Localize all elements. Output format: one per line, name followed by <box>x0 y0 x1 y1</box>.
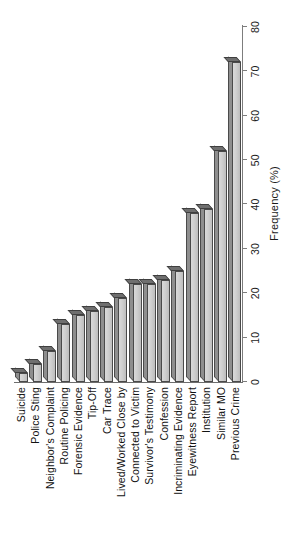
tick-label-70: 70 <box>249 65 261 77</box>
tick-label-0: 0 <box>249 379 261 385</box>
category-label-2: Police Sting <box>29 387 41 444</box>
bar-front-face <box>204 209 213 382</box>
bar-4 <box>57 318 66 382</box>
tick-40 <box>243 204 247 205</box>
category-label-6: Tip-Off <box>86 387 98 419</box>
bar-2 <box>29 358 38 382</box>
bar-front-face <box>33 364 42 382</box>
value-axis-title: Frequency (%) <box>268 25 280 382</box>
tick-60 <box>243 115 247 116</box>
category-label-15: Similar MO <box>215 387 227 440</box>
category-label-11: Confession <box>158 387 170 441</box>
bar-front-face <box>218 151 227 382</box>
bar-10 <box>143 278 152 382</box>
bar-12 <box>171 265 180 382</box>
bar-16 <box>228 57 237 383</box>
tick-label-20: 20 <box>249 287 261 299</box>
bar-15 <box>214 145 223 382</box>
tick-50 <box>243 159 247 160</box>
bar-chart: SuicidePolice StingNeighbor's ComplaintR… <box>0 0 291 551</box>
tick-label-80: 80 <box>249 21 261 33</box>
bar-1 <box>15 367 24 382</box>
bar-3 <box>43 345 52 382</box>
bar-front-face <box>47 351 56 382</box>
bar-13 <box>186 207 195 382</box>
bar-front-face <box>161 280 170 382</box>
bar-front-face <box>90 311 99 382</box>
tick-20 <box>243 292 247 293</box>
tick-30 <box>243 248 247 249</box>
tick-label-50: 50 <box>249 154 261 166</box>
category-label-4: Routine Policing <box>58 387 70 464</box>
bar-front-face <box>133 284 142 382</box>
category-label-10: Survivor's Testimony <box>143 387 155 485</box>
category-label-9: Connected to Victim <box>129 387 141 483</box>
category-label-12: Incriminating Evidence <box>172 387 184 495</box>
category-label-14: Institution <box>200 387 212 433</box>
bar-front-face <box>147 284 156 382</box>
bar-8 <box>114 292 123 382</box>
bar-11 <box>157 274 166 382</box>
category-label-5: Forensic Evidence <box>72 387 84 475</box>
bar-front-face <box>104 307 113 382</box>
bar-front-face <box>61 324 70 382</box>
chart-figure: SuicidePolice StingNeighbor's ComplaintR… <box>0 0 291 551</box>
bars-layer <box>14 27 242 382</box>
bar-7 <box>100 301 109 382</box>
tick-80 <box>243 26 247 27</box>
bar-9 <box>129 278 138 382</box>
category-axis-line <box>14 382 243 383</box>
bar-5 <box>72 309 81 382</box>
bar-front-face <box>76 315 85 382</box>
tick-0 <box>243 381 247 382</box>
tick-10 <box>243 337 247 338</box>
tick-70 <box>243 70 247 71</box>
tick-label-30: 30 <box>249 243 261 255</box>
bar-front-face <box>19 373 28 382</box>
category-label-13: Eyewitness Report <box>186 387 198 476</box>
category-label-1: Suicide <box>15 387 27 422</box>
bar-front-face <box>118 298 127 382</box>
category-label-7: Car Trace <box>101 387 113 434</box>
bar-front-face <box>190 213 199 382</box>
bar-front-face <box>175 271 184 382</box>
tick-label-60: 60 <box>249 110 261 122</box>
bar-14 <box>200 203 209 382</box>
tick-label-10: 10 <box>249 332 261 344</box>
bar-front-face <box>232 63 241 383</box>
category-label-8: Lived/Worked Close by <box>115 387 127 497</box>
category-labels: SuicidePolice StingNeighbor's ComplaintR… <box>14 387 242 551</box>
category-label-16: Previous Crime <box>229 387 241 460</box>
bar-6 <box>86 305 95 382</box>
tick-label-40: 40 <box>249 198 261 210</box>
category-label-3: Neighbor's Complaint <box>44 387 56 489</box>
